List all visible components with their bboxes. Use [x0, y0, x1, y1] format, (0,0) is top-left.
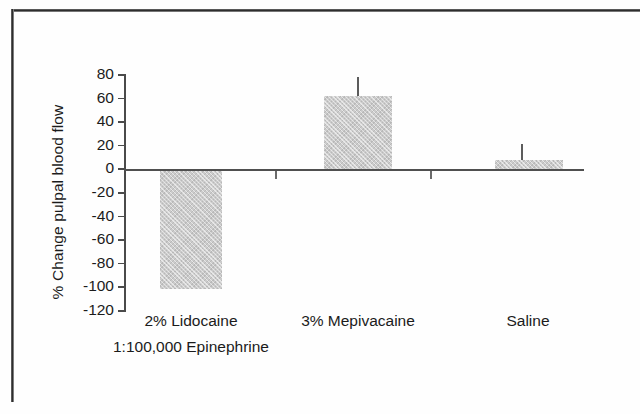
error-bar-mepivacaine: [357, 77, 359, 96]
bar-mepivacaine: [324, 96, 392, 169]
y-tick-mark: [118, 192, 125, 194]
y-tick-label: 20: [44, 136, 114, 154]
x-axis-label-lidocaine: 2% Lidocaine: [121, 312, 261, 330]
error-bar-saline: [521, 144, 523, 160]
y-tick-mark: [118, 74, 125, 76]
y-tick-label: 40: [44, 112, 114, 130]
y-tick-label: -40: [44, 207, 114, 225]
y-tick-label: -120: [44, 301, 114, 319]
bar-chart: % Change pulpal blood flow 80 60 40 20: [0, 0, 640, 414]
y-tick-mark: [118, 98, 125, 100]
y-tick-mark: [118, 145, 125, 147]
y-tick-mark: [118, 121, 125, 123]
x-axis-label-mepivacaine: 3% Mepivacaine: [278, 312, 438, 330]
y-tick-mark: [118, 286, 125, 288]
y-tick-label: -20: [44, 183, 114, 201]
y-tick-mark: [118, 216, 125, 218]
y-tick-mark: [118, 263, 125, 265]
x-axis-sublabel-epinephrine: 1:100,000 Epinephrine: [96, 338, 286, 356]
y-tick-mark: [118, 239, 125, 241]
x-axis-label-saline: Saline: [468, 312, 588, 330]
y-tick-label: -60: [44, 230, 114, 248]
y-tick-label: 80: [44, 65, 114, 83]
y-tick-label: -100: [44, 277, 114, 295]
y-tick-label: 0: [44, 159, 114, 177]
x-axis-divider-tick: [275, 171, 277, 179]
y-tick-label: 60: [44, 89, 114, 107]
figure-page: % Change pulpal blood flow 80 60 40 20: [0, 0, 640, 414]
x-axis-divider-tick: [430, 171, 432, 179]
bar-saline: [495, 160, 563, 170]
y-tick-label: -80: [44, 254, 114, 272]
bar-lidocaine: [160, 171, 222, 289]
